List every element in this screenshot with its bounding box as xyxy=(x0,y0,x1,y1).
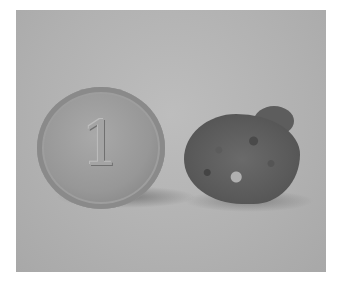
coin-numeral: 1 xyxy=(37,109,165,179)
rock-specimen xyxy=(184,114,300,204)
coin: 1 xyxy=(37,87,165,209)
photograph: 1 xyxy=(16,10,326,272)
